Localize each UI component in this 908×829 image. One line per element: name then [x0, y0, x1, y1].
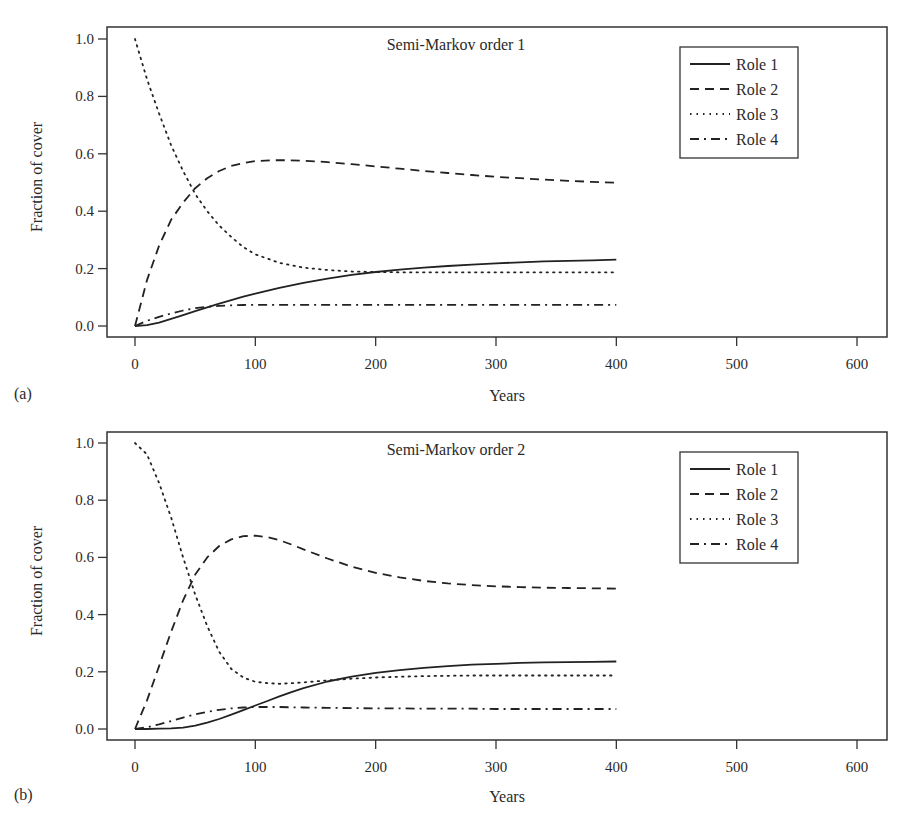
x-tick-label: 200: [364, 356, 387, 372]
x-tick-label: 100: [244, 356, 267, 372]
x-tick-label: 0: [131, 356, 139, 372]
y-tick-label: 0.8: [75, 88, 94, 104]
y-tick-label: 1.0: [75, 31, 94, 47]
panel-a: 0.00.20.40.60.81.00100200300400500600Yea…: [14, 27, 887, 404]
y-axis-title: Fraction of cover: [28, 121, 45, 232]
series-line-role-1: [135, 260, 616, 326]
y-axis-title: Fraction of cover: [28, 525, 45, 636]
legend-label: Role 3: [736, 106, 778, 123]
x-axis-title: Years: [489, 788, 525, 805]
x-tick-label: 500: [725, 356, 748, 372]
panel-label: (a): [14, 385, 32, 403]
panel-title: Semi-Markov order 2: [387, 441, 526, 458]
series-line-role-3: [135, 443, 616, 684]
x-tick-label: 0: [131, 759, 139, 775]
series-line-role-1: [135, 662, 616, 730]
legend-label: Role 1: [736, 56, 778, 73]
legend-label: Role 2: [736, 486, 778, 503]
figure: 0.00.20.40.60.81.00100200300400500600Yea…: [0, 0, 908, 829]
legend-label: Role 4: [736, 536, 778, 553]
panel-title: Semi-Markov order 1: [387, 36, 526, 53]
legend-label: Role 1: [736, 461, 778, 478]
series-line-role-4: [135, 707, 616, 729]
legend-label: Role 3: [736, 511, 778, 528]
legend-label: Role 2: [736, 81, 778, 98]
y-tick-label: 0.8: [75, 492, 94, 508]
y-tick-label: 0.4: [75, 607, 94, 623]
y-tick-label: 0.6: [75, 549, 94, 565]
series-line-role-3: [135, 39, 616, 272]
y-tick-label: 0.0: [75, 721, 94, 737]
x-axis-title: Years: [489, 387, 525, 404]
x-tick-label: 200: [364, 759, 387, 775]
x-tick-label: 100: [244, 759, 267, 775]
panel-label: (b): [14, 786, 33, 804]
y-tick-label: 0.0: [75, 318, 94, 334]
legend-label: Role 4: [736, 131, 778, 148]
x-tick-label: 300: [485, 759, 508, 775]
legend: Role 1Role 2Role 3Role 4: [680, 452, 798, 563]
series-line-role-2: [135, 536, 616, 729]
x-tick-label: 400: [605, 759, 628, 775]
x-tick-label: 600: [846, 356, 869, 372]
legend: Role 1Role 2Role 3Role 4: [680, 47, 798, 158]
y-tick-label: 0.2: [75, 261, 94, 277]
x-tick-label: 400: [605, 356, 628, 372]
y-tick-label: 0.6: [75, 146, 94, 162]
series-line-role-2: [135, 160, 616, 326]
x-tick-label: 500: [725, 759, 748, 775]
x-tick-label: 300: [485, 356, 508, 372]
y-tick-label: 0.4: [75, 203, 94, 219]
y-tick-label: 1.0: [75, 435, 94, 451]
y-tick-label: 0.2: [75, 664, 94, 680]
x-tick-label: 600: [846, 759, 869, 775]
panel-b: 0.00.20.40.60.81.00100200300400500600Yea…: [14, 432, 887, 805]
